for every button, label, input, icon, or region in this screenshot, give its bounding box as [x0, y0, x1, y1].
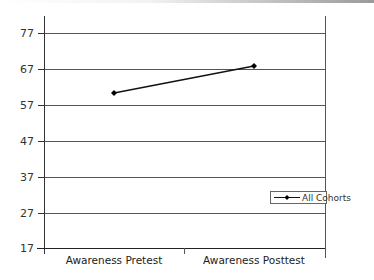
y-tick-label: 37: [20, 171, 34, 184]
legend: All Cohorts: [271, 192, 352, 204]
y-tick-label: 77: [20, 27, 34, 40]
y-tick-label: 57: [20, 99, 34, 112]
diamond-marker: [251, 63, 257, 69]
series-all-cohorts: [111, 63, 257, 96]
y-ticks: [38, 34, 44, 214]
y-tick-label: 27: [20, 207, 34, 220]
x-category-label: Awareness Pretest: [66, 254, 163, 266]
diamond-marker: [111, 90, 117, 96]
legend-label: All Cohorts: [302, 193, 351, 203]
gridlines: [44, 34, 325, 214]
x-category-label: Awareness Posttest: [203, 254, 305, 266]
y-tick-label: 67: [20, 63, 34, 76]
y-tick-label: 17: [20, 242, 34, 255]
y-tick-labels: 77 67 57 47 37 27 17: [20, 27, 34, 255]
y-tick-label: 47: [20, 135, 34, 148]
line-chart: 77 67 57 47 37 27 17 Awareness Pretest A…: [0, 0, 374, 280]
